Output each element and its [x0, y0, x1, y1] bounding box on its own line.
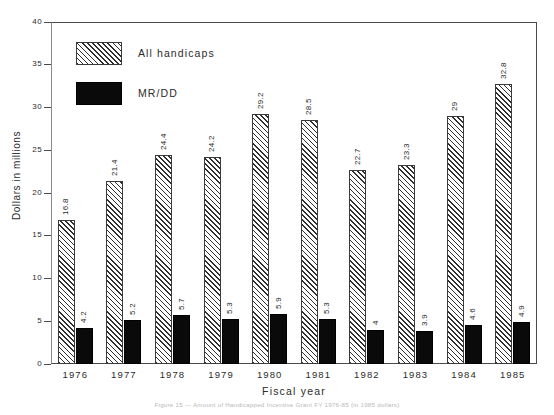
- x-axis-tick-label: 1985: [488, 369, 537, 380]
- y-tick-label: 35: [32, 59, 42, 68]
- y-tick-mark: [44, 235, 51, 236]
- y-axis-title: Dollars in millions: [11, 116, 22, 236]
- y-tick-mark: [44, 193, 51, 194]
- legend-swatch: [76, 82, 122, 105]
- legend-label: MR/DD: [138, 87, 178, 99]
- bar-value-label: 21.4: [109, 159, 118, 176]
- y-tick-mark: [44, 22, 51, 23]
- bar-mr-dd-1976: 4.2: [76, 328, 93, 364]
- bar-value-label: 28.5: [304, 99, 313, 116]
- y-tick-label: 30: [32, 102, 42, 111]
- bar-mr-dd-1980: 5.9: [270, 314, 287, 364]
- y-tick-label: 40: [32, 17, 42, 26]
- bar-value-label: 23.3: [401, 143, 410, 160]
- bar-mr-dd-1981: 5.3: [319, 319, 336, 364]
- y-tick-label: 5: [37, 316, 42, 325]
- bar-all-handicaps-1985: 32.8: [495, 84, 512, 364]
- y-tick-mark: [44, 364, 51, 365]
- legend-label: All handicaps: [138, 47, 215, 59]
- bar-all-handicaps-1983: 23.3: [398, 165, 415, 364]
- bar-all-handicaps-1981: 28.5: [301, 120, 318, 364]
- figure-caption: Figure 15 — Amount of Handicapped Incent…: [0, 401, 554, 408]
- y-axis: Dollars in millions 0510152025303540: [0, 0, 51, 415]
- bar-value-label: 29: [450, 102, 459, 112]
- x-axis-tick-label: 1981: [294, 369, 343, 380]
- chart-legend: All handicapsMR/DD: [76, 42, 266, 114]
- bar-all-handicaps-1977: 21.4: [106, 181, 123, 364]
- x-axis-tick-label: 1978: [148, 369, 197, 380]
- bar-all-handicaps-1979: 24.2: [204, 157, 221, 364]
- bar-value-label: 4.9: [516, 305, 525, 317]
- y-tick-label: 15: [32, 230, 42, 239]
- x-axis-tick-label: 1976: [51, 369, 100, 380]
- bar-value-label: 5.3: [322, 302, 331, 314]
- bar-value-label: 24.2: [207, 135, 216, 152]
- y-tick-mark: [44, 278, 51, 279]
- bar-mr-dd-1985: 4.9: [513, 322, 530, 364]
- y-tick-mark: [44, 64, 51, 65]
- figure-container: Dollars in millions 0510152025303540 16.…: [0, 0, 554, 415]
- bar-value-label: 5.3: [225, 302, 234, 314]
- bar-value-label: 5.2: [127, 303, 136, 315]
- bar-mr-dd-1982: 4: [367, 330, 384, 364]
- bar-mr-dd-1984: 4.6: [465, 325, 482, 364]
- bar-value-label: 4.6: [468, 308, 477, 320]
- y-tick-mark: [44, 321, 51, 322]
- bar-value-label: 3.9: [419, 314, 428, 326]
- bar-mr-dd-1979: 5.3: [222, 319, 239, 364]
- y-tick-mark: [44, 150, 51, 151]
- bar-value-label: 4: [370, 320, 379, 325]
- x-axis-tick-label: 1982: [343, 369, 392, 380]
- y-tick-label: 20: [32, 188, 42, 197]
- x-axis-tick-label: 1980: [245, 369, 294, 380]
- y-tick-label: 25: [32, 145, 42, 154]
- bar-value-label: 4.2: [79, 311, 88, 323]
- y-tick-label: 0: [37, 359, 42, 368]
- bar-value-label: 16.8: [61, 199, 70, 216]
- bar-mr-dd-1977: 5.2: [124, 320, 141, 364]
- bar-all-handicaps-1978: 24.4: [155, 155, 172, 364]
- bar-value-label: 5.9: [273, 297, 282, 309]
- x-axis-tick-label: 1984: [440, 369, 489, 380]
- bar-value-label: 5.7: [176, 298, 185, 310]
- bar-mr-dd-1983: 3.9: [416, 331, 433, 364]
- x-axis-tick-label: 1979: [197, 369, 246, 380]
- bar-all-handicaps-1980: 29.2: [252, 114, 269, 364]
- bar-value-label: 22.7: [352, 148, 361, 165]
- y-tick-label: 10: [32, 273, 42, 282]
- bar-mr-dd-1978: 5.7: [173, 315, 190, 364]
- x-axis-title: Fiscal year: [51, 385, 537, 397]
- bar-all-handicaps-1976: 16.8: [58, 220, 75, 364]
- bar-value-label: 24.4: [158, 134, 167, 151]
- x-axis-tick-label: 1977: [100, 369, 149, 380]
- bar-all-handicaps-1984: 29: [447, 116, 464, 364]
- bar-all-handicaps-1982: 22.7: [349, 170, 366, 364]
- legend-swatch: [76, 42, 122, 65]
- x-axis-tick-label: 1983: [391, 369, 440, 380]
- bar-value-label: 32.8: [498, 62, 507, 79]
- y-tick-mark: [44, 107, 51, 108]
